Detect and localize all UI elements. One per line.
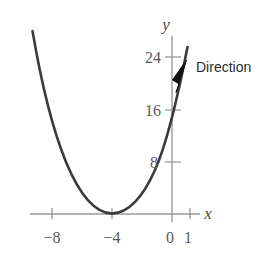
parabola-plot: y x −8 −4 0 1 8 16 24 Direction xyxy=(0,0,269,266)
x-axis-label: x xyxy=(203,204,212,223)
figure-root: y x −8 −4 0 1 8 16 24 Direction xyxy=(0,0,269,266)
direction-label: Direction xyxy=(196,59,251,75)
y-tick-label-16: 16 xyxy=(145,102,161,119)
x-tick-label-1: 1 xyxy=(184,229,192,246)
y-axis-label: y xyxy=(160,15,170,34)
x-tick-label-0: 0 xyxy=(166,229,174,246)
y-tick-label-24: 24 xyxy=(145,49,161,66)
x-tick-label--8: −8 xyxy=(43,229,60,246)
y-tick-label-8: 8 xyxy=(150,154,158,171)
parabola-curve xyxy=(33,31,188,214)
x-tick-label--4: −4 xyxy=(103,229,120,246)
